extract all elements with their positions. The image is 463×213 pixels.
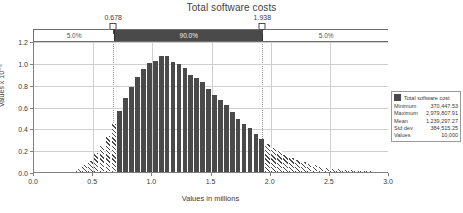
band-segment-middle: 90.0% [114,30,263,41]
certainty-lower-value: 0.678 [104,14,122,21]
y-tick-label: 1.2 [18,39,28,46]
histogram-bar [177,64,182,172]
statistics-value: 10,000 [421,132,458,139]
certainty-band[interactable]: 5.0% 90.0% 5.0% [33,29,388,42]
histogram-bar [248,128,253,172]
certainty-grip-upper[interactable] [259,23,266,30]
histogram-bar [336,169,341,172]
statistics-value: 2,979,807.91 [421,110,458,117]
histogram-bar [271,148,276,172]
y-tick-mark [30,151,33,152]
histogram-bar [112,124,117,172]
x-tick-label: 0.0 [28,178,38,185]
y-tick-mark [30,86,33,87]
y-tick-label: 0.6 [18,104,28,111]
x-tick-mark [270,173,271,176]
legend-item: Total software cost [394,94,458,101]
histogram-bar [307,164,312,172]
x-tick-mark [329,173,330,176]
histogram-bar [254,134,259,172]
histogram-bar [82,165,87,172]
y-tick-label: 0.8 [18,82,28,89]
histogram-bar [159,56,164,172]
statistics-label: Values [394,132,421,139]
y-tick-mark [30,64,33,65]
x-tick-label: 1.0 [146,178,156,185]
legend-stats-panel: Total software cost Minimum370,447.53Max… [391,91,461,142]
plot-area [33,42,388,173]
histogram-bar [165,56,170,172]
statistics-label: Maximum [394,110,421,117]
histogram-bar [206,89,211,172]
statistics-value: 384,515.25 [421,125,458,132]
histogram-bar [141,69,146,172]
certainty-grip-lower[interactable] [110,23,117,30]
histogram-bar [259,139,264,172]
statistics-row: Minimum370,447.53 [394,103,458,110]
histogram-bar [354,171,359,172]
histogram-bar [360,171,365,172]
y-tick-label: 1.0 [18,60,28,67]
legend-item-label: Total software cost [404,95,450,101]
histogram-bar [277,151,282,172]
statistics-label: Mean [394,118,421,125]
histogram-bar [212,95,217,173]
histogram-bar [153,61,158,172]
histogram-bar [100,146,105,172]
histogram-bar [194,78,199,172]
x-tick-mark [92,173,93,176]
histogram-bar [342,170,347,172]
band-segment-right: 5.0% [263,30,389,41]
histogram-bar [265,144,270,172]
histogram-bar [88,161,93,172]
statistics-table: Minimum370,447.53Maximum2,979,807.91Mean… [394,103,458,139]
statistics-value: 370,447.53 [421,103,458,110]
histogram-bar [135,77,140,172]
histogram-bar [319,167,324,172]
statistics-row: Mean1,239,297.27 [394,118,458,125]
chart-title: Total software costs [0,2,463,13]
histogram-bar [123,98,128,172]
x-tick-mark [151,173,152,176]
x-tick-label: 1.5 [206,178,216,185]
histogram-bar [200,82,205,172]
statistics-row: Values10,000 [394,132,458,139]
histogram-bar [283,155,288,172]
plot-inner [34,42,388,172]
chart-container: Total software costs 5.0% 90.0% 5.0% 0.6… [0,0,463,213]
histogram-bar [117,111,122,172]
histogram-bar [366,171,371,172]
histogram-bar [183,68,188,172]
histogram-bar [147,63,152,172]
gridline-vertical [330,42,331,172]
histogram-bar [76,169,81,172]
histogram-bar [236,119,241,172]
histogram-bar [301,162,306,172]
y-tick-mark [30,129,33,130]
histogram-bar [230,112,235,172]
y-tick-label: 0.0 [18,170,28,177]
x-tick-label: 3.0 [383,178,393,185]
x-axis-title: Values in millions [33,194,388,203]
histogram-bar [224,105,229,172]
legend-swatch-icon [394,94,401,101]
statistics-row: Maximum2,979,807.91 [394,110,458,117]
x-tick-label: 2.5 [324,178,334,185]
histogram-bar [313,165,318,172]
y-axis-title: Values x 10⁻⁶ [0,64,6,107]
certainty-upper-value: 1.938 [254,14,272,21]
histogram-bar [348,170,353,172]
histogram-bar [188,75,193,172]
histogram-bar [295,160,300,172]
histogram-bar [129,87,134,172]
y-tick-label: 0.4 [18,126,28,133]
histogram-bar [325,168,330,172]
histogram-bar [171,62,176,172]
histogram-bar [106,136,111,172]
statistics-label: Minimum [394,103,421,110]
statistics-label: Std dev [394,125,421,132]
histogram-bar [330,169,335,172]
statistics-value: 1,239,297.27 [421,118,458,125]
y-tick-mark [30,108,33,109]
histogram-bar [289,158,294,172]
